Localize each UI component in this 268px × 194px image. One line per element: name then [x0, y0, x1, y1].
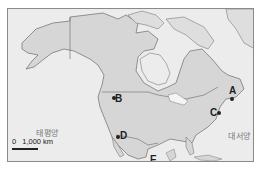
scale-bar — [12, 148, 38, 150]
hudson-bay — [140, 53, 170, 85]
scale-label: 0 1,000 km — [12, 137, 53, 146]
scale-distance: 1,000 km — [22, 137, 53, 146]
point-b-label: B — [115, 94, 122, 104]
point-c-dot — [217, 111, 221, 115]
point-e-label: E — [150, 155, 157, 162]
map-frame: A B C D E 태평양 대서양 0 1,000 km — [7, 8, 254, 162]
atlantic-ocean-label: 대서양 — [228, 133, 251, 141]
greenland-edge — [226, 9, 254, 49]
yucatan — [166, 149, 176, 161]
point-d-label: D — [120, 131, 127, 141]
point-a-label: A — [229, 86, 236, 96]
baffin-island — [166, 17, 214, 49]
point-c-label: C — [210, 108, 217, 118]
scale-zero: 0 — [12, 137, 16, 146]
point-a-dot — [230, 97, 234, 101]
caribbean-islands — [194, 155, 222, 161]
